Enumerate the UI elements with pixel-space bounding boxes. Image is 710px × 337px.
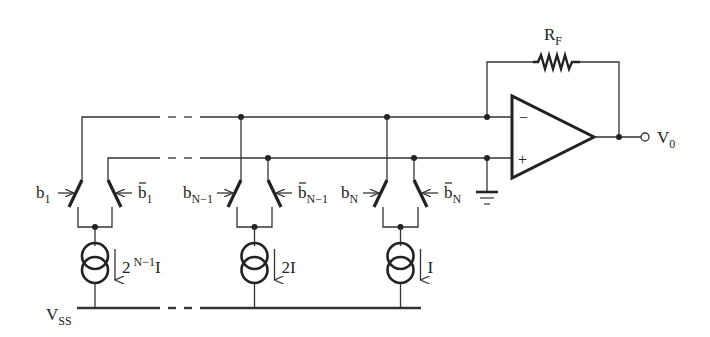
vss-label: VSS <box>46 305 72 328</box>
branch-1: b1b12N−1I <box>36 180 161 308</box>
inverting-node <box>484 114 490 120</box>
current-source-icon <box>242 243 268 283</box>
output-node <box>616 134 622 140</box>
switch-right <box>268 180 292 207</box>
switch-right-label: b1 <box>138 183 153 206</box>
inverting-rail <box>82 117 512 180</box>
feedback-resistor <box>533 55 580 69</box>
current-branches: b1b12N−1IbN−1bN−12IbNbNI <box>36 114 462 308</box>
current-source-label: I <box>428 258 434 277</box>
current-source-icon <box>388 243 414 283</box>
opamp: − + <box>512 96 594 178</box>
switch-left-label: bN <box>341 183 359 206</box>
switch-left <box>217 180 241 207</box>
current-source-icon <box>82 243 108 283</box>
feedback-resistor-label: RF <box>544 25 562 48</box>
switch-right <box>414 180 438 207</box>
switch-left <box>363 180 387 207</box>
switch-left-label: bN−1 <box>183 183 213 206</box>
output-label: V0 <box>657 128 675 151</box>
current-source-label: 2I <box>282 258 297 277</box>
switch-left-label: b1 <box>36 183 51 206</box>
dac-circuit-diagram: − + RF V0 VSS b1b12N−1IbN−1bN−12IbNbNI <box>0 0 710 337</box>
opamp-noninverting-sign: + <box>518 151 527 168</box>
output-terminal <box>641 133 649 141</box>
switch-right <box>108 180 132 207</box>
ground-icon <box>476 155 498 204</box>
branch-3: bNbNI <box>341 114 462 308</box>
noninverting-rail <box>108 158 512 180</box>
branch-2: bN−1bN−12I <box>183 114 328 308</box>
switch-left <box>58 180 82 207</box>
switch-right-label: bN <box>444 183 462 206</box>
opamp-inverting-sign: − <box>519 109 528 126</box>
switch-right-label: bN−1 <box>298 183 328 206</box>
current-source-label: 2N−1I <box>122 255 161 277</box>
